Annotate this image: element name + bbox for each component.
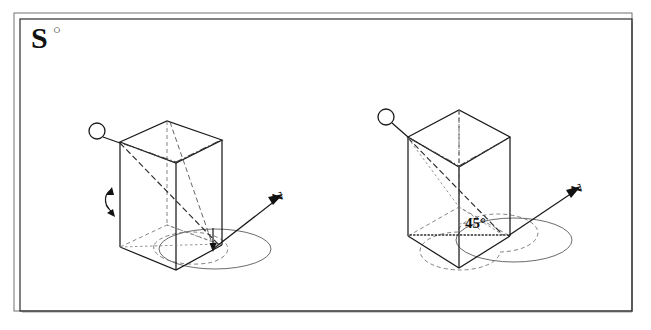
right-angle-label: 45°: [465, 215, 486, 231]
left-callout-marker-icon: [89, 123, 105, 139]
page-background: [0, 0, 651, 330]
diagram-canvas: S ○: [0, 0, 651, 330]
page-title-degree-icon: ○: [53, 22, 61, 37]
right-callout-marker-icon: [378, 109, 394, 125]
page-title: S: [31, 21, 48, 54]
diagram-root: S ○: [0, 0, 651, 330]
